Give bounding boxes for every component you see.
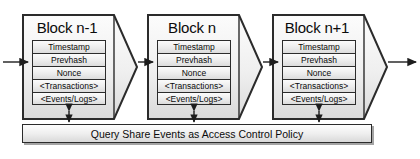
block-field-stack: Timestamp Prevhash Nonce <Transactions> … bbox=[32, 40, 106, 105]
block-title: Block n-1 bbox=[22, 20, 112, 36]
field-transactions[interactable]: <Transactions> bbox=[32, 79, 106, 92]
policy-bar-label: Query Share Events as Access Control Pol… bbox=[23, 125, 371, 142]
field-nonce[interactable]: Nonce bbox=[32, 66, 106, 79]
field-nonce[interactable]: Nonce bbox=[282, 66, 356, 79]
field-events-logs[interactable]: <Events/Logs> bbox=[157, 92, 231, 105]
field-events-logs[interactable]: <Events/Logs> bbox=[32, 92, 106, 105]
diagram-canvas: Block n-1 Timestamp Prevhash Nonce <Tran… bbox=[0, 0, 420, 159]
policy-bar[interactable]: Query Share Events as Access Control Pol… bbox=[22, 124, 372, 143]
field-timestamp[interactable]: Timestamp bbox=[157, 40, 231, 53]
block-n-plus-1[interactable]: Block n+1 Timestamp Prevhash Nonce <Tran… bbox=[272, 14, 388, 120]
field-timestamp[interactable]: Timestamp bbox=[32, 40, 106, 53]
field-nonce[interactable]: Nonce bbox=[157, 66, 231, 79]
block-field-stack: Timestamp Prevhash Nonce <Transactions> … bbox=[282, 40, 356, 105]
field-transactions[interactable]: <Transactions> bbox=[157, 79, 231, 92]
field-events-logs[interactable]: <Events/Logs> bbox=[282, 92, 356, 105]
field-timestamp[interactable]: Timestamp bbox=[282, 40, 356, 53]
field-transactions[interactable]: <Transactions> bbox=[282, 79, 356, 92]
block-title: Block n bbox=[147, 20, 237, 36]
block-title: Block n+1 bbox=[272, 20, 362, 36]
block-n[interactable]: Block n Timestamp Prevhash Nonce <Transa… bbox=[147, 14, 263, 120]
field-prevhash[interactable]: Prevhash bbox=[32, 53, 106, 66]
field-prevhash[interactable]: Prevhash bbox=[282, 53, 356, 66]
field-prevhash[interactable]: Prevhash bbox=[157, 53, 231, 66]
block-n-minus-1[interactable]: Block n-1 Timestamp Prevhash Nonce <Tran… bbox=[22, 14, 138, 120]
caption-strip bbox=[0, 150, 420, 159]
block-field-stack: Timestamp Prevhash Nonce <Transactions> … bbox=[157, 40, 231, 105]
